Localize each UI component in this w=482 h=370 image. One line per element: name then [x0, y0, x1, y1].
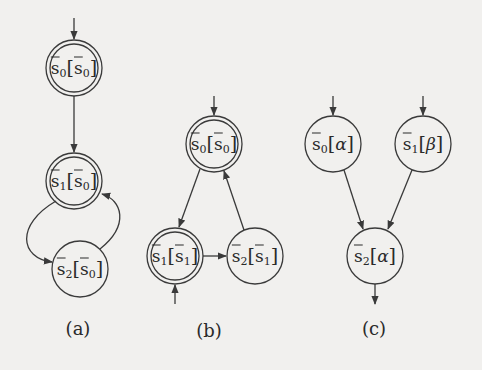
edge-a2-a1 — [100, 194, 120, 249]
edge-b0-b1 — [179, 169, 200, 227]
edge-b2-b0 — [224, 171, 244, 230]
node-label-b2: s2[s1] — [232, 246, 278, 267]
node-label-c0: s0[α] — [312, 134, 354, 155]
edge-c1-c2 — [388, 170, 412, 229]
node-label-b1: s1[s1] — [152, 246, 198, 267]
node-label-a1: s1[s0] — [51, 171, 97, 192]
node-label-a0: s0[s0] — [51, 58, 97, 79]
edge-c0-c2 — [344, 170, 363, 229]
node-label-c2: s2[α] — [354, 246, 396, 267]
node-label-b0: s0[s0] — [191, 134, 237, 155]
node-label-a2: s2[s0] — [57, 259, 103, 280]
panel-label-c: (c) — [362, 318, 386, 339]
edge-a1-a2 — [27, 201, 56, 262]
node-label-c1: s1[β] — [403, 134, 443, 155]
panel-label-b: (b) — [196, 320, 222, 341]
automata-figure: s0[s0] s1[s0] s2[s0] s0[s0] s1[s1] s2[s1… — [0, 0, 482, 370]
panel-label-a: (a) — [66, 318, 91, 339]
